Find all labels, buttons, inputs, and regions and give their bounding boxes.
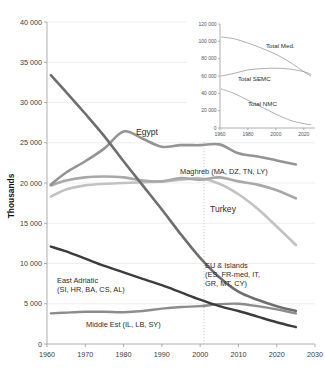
x-tick-label: 1980	[116, 350, 132, 359]
inset-plot-group: 020 00040 00060 00080 000100 000120 0001…	[187, 16, 324, 142]
inset-x-tick-label: 2020	[298, 131, 309, 137]
x-tick-label: 2030	[307, 350, 323, 359]
y-tick-label: 0	[38, 340, 42, 349]
series-label-middle-est-il-lb-sy: Middle Est (IL, LB, SY)	[86, 320, 161, 329]
series-line-turkey	[51, 178, 296, 245]
y-tick-label: 20 000	[20, 179, 42, 188]
y-tick-label: 10 000	[20, 259, 42, 268]
inset-x-tick-label: 1960	[214, 131, 225, 137]
series-label-maghreb-ma-dz-tn-ly: Maghreb (MA, DZ, TN, LY)	[180, 167, 268, 176]
x-tick-label: 1990	[154, 350, 170, 359]
series-label-east-adriatic-si-hr-ba-cs-al: (SI, HR, BA, CS, AL)	[57, 285, 125, 294]
inset-y-tick-label: 80 000	[201, 55, 217, 61]
y-tick-label: 25 000	[20, 138, 42, 147]
inset-y-tick-label: 20 000	[201, 107, 217, 113]
series-label-eu-islands-es-fr-med-it-gr-mt-cy: GR, MT, CY)	[205, 279, 247, 288]
inset-y-tick-label: 40 000	[201, 90, 217, 96]
y-tick-label: 35 000	[20, 58, 42, 67]
x-tick-label: 2020	[269, 350, 285, 359]
x-tick-label: 1970	[77, 350, 93, 359]
inset-x-tick-label: 2000	[270, 131, 281, 137]
series-label-turkey: Turkey	[210, 204, 237, 214]
x-tick-label: 2000	[192, 350, 208, 359]
inset-y-tick-label: 120 000	[198, 21, 216, 27]
inset-series-label-total-semc: Total SEMC	[238, 75, 271, 82]
y-tick-label: 30 000	[20, 98, 42, 107]
y-tick-label: 15 000	[20, 219, 42, 228]
inset-y-tick-label: 60 000	[201, 73, 217, 79]
series-line-maghreb-ma-dz-tn-ly	[51, 177, 296, 199]
series-label-egypt: Egypt	[136, 127, 159, 137]
chart-figure: 05 00010 00015 00020 00025 00030 00035 0…	[0, 0, 325, 375]
y-axis-title: Thousands	[6, 173, 16, 218]
line-chart-svg: 05 00010 00015 00020 00025 00030 00035 0…	[0, 0, 325, 375]
series-label-east-adriatic-si-hr-ba-cs-al: East Adriatic	[57, 276, 98, 285]
x-tick-label: 1960	[39, 350, 55, 359]
inset-series-label-total-med: Total Med.	[266, 42, 295, 49]
y-tick-label: 5 000	[24, 299, 42, 308]
series-label-eu-islands-es-fr-med-it-gr-mt-cy: (ES, FR-med, IT,	[205, 270, 260, 279]
x-tick-label: 2010	[230, 350, 246, 359]
inset-x-tick-label: 1980	[242, 131, 253, 137]
series-label-eu-islands-es-fr-med-it-gr-mt-cy: EU & Islands	[205, 261, 248, 270]
inset-y-tick-label: 100 000	[198, 38, 216, 44]
y-tick-label: 40 000	[20, 18, 42, 27]
series-line-middle-est-il-lb-sy	[51, 304, 296, 314]
inset-series-label-total-nmc: Total NMC	[248, 100, 277, 107]
chart-canvas: 05 00010 00015 00020 00025 00030 00035 0…	[0, 0, 325, 375]
